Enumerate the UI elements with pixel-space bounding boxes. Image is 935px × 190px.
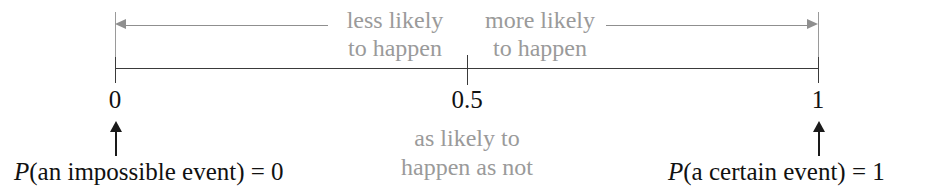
as-likely-caption-line1: as likely to <box>377 124 557 153</box>
probability-number-line-figure: less likely to happen more likely to hap… <box>0 0 935 190</box>
less-likely-arrow-shaft <box>122 25 328 26</box>
more-likely-arrow-shaft <box>606 25 812 26</box>
certain-event-caption: P(a certain event) = 1 <box>668 158 885 186</box>
axis-label-0: 0 <box>75 86 155 114</box>
impossible-event-caption-text: (an impossible event) = 0 <box>29 158 283 185</box>
certain-event-caption-text: (a certain event) = 1 <box>683 158 885 185</box>
arrow-up-left-icon <box>110 121 122 132</box>
impossible-event-caption: P(an impossible event) = 0 <box>14 158 284 186</box>
pointer-arrow-shaft-left <box>115 130 117 156</box>
axis-tick-0-5 <box>467 55 468 85</box>
more-likely-caption-line2: to happen <box>475 34 605 62</box>
more-likely-caption-line1: more likely <box>475 6 605 34</box>
as-likely-caption-line2: happen as not <box>377 153 557 182</box>
guide-line-right <box>818 12 819 62</box>
axis-tick-1 <box>818 57 819 83</box>
axis-label-0-5: 0.5 <box>427 86 507 114</box>
more-likely-caption: more likely to happen <box>475 6 605 62</box>
certain-event-p-symbol: P <box>668 158 683 185</box>
arrow-right-icon <box>807 19 818 29</box>
axis-tick-0 <box>115 57 116 83</box>
less-likely-caption-line2: to happen <box>330 34 460 62</box>
axis-label-1: 1 <box>778 86 858 114</box>
as-likely-caption: as likely to happen as not <box>377 124 557 182</box>
impossible-event-p-symbol: P <box>14 158 29 185</box>
less-likely-caption-line1: less likely <box>330 6 460 34</box>
pointer-arrow-shaft-right <box>818 130 820 156</box>
arrow-left-icon <box>115 19 126 29</box>
less-likely-caption: less likely to happen <box>330 6 460 62</box>
arrow-up-right-icon <box>813 121 825 132</box>
